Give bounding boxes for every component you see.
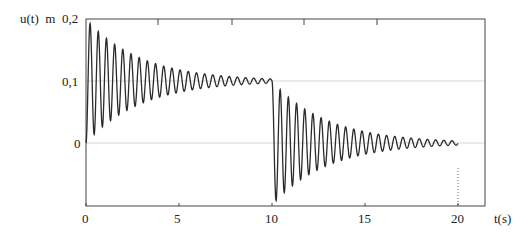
y-unit: m xyxy=(45,11,55,26)
y-tick-label-0.1: 0,1 xyxy=(62,75,78,88)
plot-area xyxy=(0,0,532,237)
x-tick-label-15: 15 xyxy=(358,212,371,225)
x-axis-label: t(s) xyxy=(494,212,511,225)
y-tick-label-0: 0 xyxy=(74,137,81,150)
x-tick-label-20: 20 xyxy=(451,212,464,225)
x-tick-label-0: 0 xyxy=(82,212,89,225)
x-tick-label-5: 5 xyxy=(174,212,181,225)
y-label-text: u(t) xyxy=(20,11,39,26)
y-axis-label: u(t) m xyxy=(20,12,55,25)
axis-ticks xyxy=(86,19,458,206)
response-curve xyxy=(86,23,458,200)
y-tick-label-0.2: 0,2 xyxy=(62,12,78,25)
x-tick-label-10: 10 xyxy=(265,212,278,225)
